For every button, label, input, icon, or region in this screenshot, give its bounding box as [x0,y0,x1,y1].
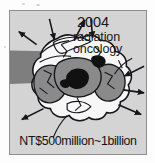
annotation-department-line-2: oncology [73,43,122,56]
arrow-top-inward-left [49,19,54,40]
arrow-right-outward-lower [118,105,141,115]
figure-caption: NT$500million~1billion [10,134,146,148]
scan-speckle [4,46,6,48]
arrow-bottom-left-outward [22,109,44,120]
annotation-year: 2004 [77,15,109,30]
scan-speckle [36,4,40,6]
scan-speckle [22,3,25,5]
arrow-top-left-outward [19,32,37,45]
figure-root: 2004 radiation oncology NT$500million~1b… [0,0,155,163]
annotation-department: radiation oncology [73,31,122,56]
diagram-panel: 2004 radiation oncology NT$500million~1b… [9,10,147,155]
